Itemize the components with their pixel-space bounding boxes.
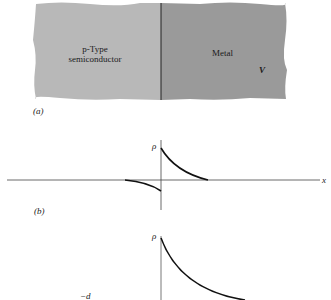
rho-label-b: ρ [152, 141, 156, 151]
semiconductor-label-line2: semiconductor [60, 54, 130, 64]
caption-a: (a) [33, 106, 44, 116]
x-label-b: x [322, 175, 326, 185]
semiconductor-label: p-Type semiconductor [60, 44, 130, 64]
voltage-label: V [259, 65, 265, 75]
caption-b: (b) [34, 206, 45, 216]
positive-charge-curve [161, 148, 208, 180]
tick-label-minus-d: −d [80, 291, 91, 300]
rho-label-c: ρ [152, 231, 156, 241]
semiconductor-label-line1: p-Type [60, 44, 130, 54]
diagram-canvas [0, 0, 331, 300]
negative-charge-curve [125, 180, 161, 191]
charge-decay-curve [161, 238, 245, 300]
metal-label: Metal [212, 48, 233, 58]
